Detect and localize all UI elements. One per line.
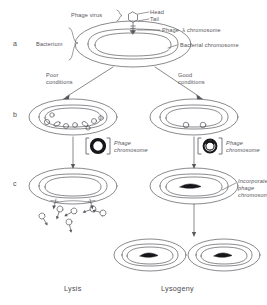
poor-conditions-label-line1: Poor	[46, 72, 58, 79]
released-phage-particles	[38, 205, 107, 233]
row-b-left-inset-glyph	[86, 138, 110, 154]
row-label-c: c	[13, 181, 17, 188]
poor-conditions-label-line2: conditions	[46, 79, 73, 86]
good-conditions-label-line2: conditions	[178, 79, 205, 86]
good-conditions-label-line1: Good	[178, 72, 192, 79]
daughter-cell-right	[188, 239, 260, 271]
incorporated-leader-line	[222, 183, 236, 190]
row-b-right-inset-glyph	[198, 138, 222, 154]
row-label-a: a	[13, 41, 17, 48]
phage-virus-glyph	[129, 12, 138, 34]
phage-lambda-chromosome-label: Phage λ chromosome	[162, 27, 221, 34]
right-phage-chromosome-inset-label-line2: chromosome	[226, 147, 260, 154]
row-label-b: b	[13, 112, 17, 119]
row-c-left-bacterium	[29, 168, 117, 204]
row-b-left-bacterium	[29, 99, 117, 135]
tail-label: Tail	[150, 16, 159, 23]
incorporated-phage-chromosome-label-line3: chromosome	[238, 192, 267, 199]
phage-life-cycle-figure: a b c Phage virus Head Tail Bacterium Ph…	[0, 0, 267, 305]
row-c-right-bacterium	[150, 168, 238, 204]
left-phage-chromosome-inset-label-line2: chromosome	[114, 147, 148, 154]
head-label: Head	[150, 9, 164, 16]
bacterium-label: Bacterium	[36, 41, 63, 48]
row-b-right-bacterium	[150, 99, 238, 135]
left-phage-chromosome-inset-label-line1: Phage	[114, 140, 131, 147]
right-phage-chromosome-inset-label-line1: Phage	[226, 140, 243, 147]
phage-virus-label: Phage virus	[71, 12, 102, 19]
lysogeny-outcome-label: Lysogeny	[161, 286, 194, 293]
lysis-outcome-label: Lysis	[64, 286, 82, 293]
lysogeny-division-arrow	[192, 204, 196, 237]
daughter-cell-left	[114, 239, 186, 271]
bacterial-chromosome-label: Bacterial chromosome	[180, 42, 239, 49]
incorporated-phage-chromosome-label-line2: phage	[238, 185, 254, 192]
incorporated-phage-chromosome-label-line1: Incorporated	[238, 178, 267, 185]
